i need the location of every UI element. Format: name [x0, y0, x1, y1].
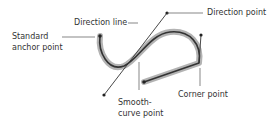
label-direction-point: Direction point	[207, 8, 266, 18]
corner-direction-handle[interactable]	[199, 33, 202, 36]
curve-path-halo	[100, 32, 200, 82]
end-anchor-point[interactable]	[142, 80, 146, 84]
standard-anchor-point[interactable]	[98, 34, 102, 38]
label-corner-point: Corner point	[178, 90, 228, 100]
label-standard-anchor-1: Standard	[12, 32, 48, 42]
direction-point-handle-lower[interactable]	[102, 93, 105, 96]
label-direction-line: Direction line	[74, 18, 127, 28]
label-smooth-curve-1: Smooth-	[118, 98, 152, 108]
label-standard-anchor-2: anchor point	[12, 43, 63, 53]
label-smooth-curve-2: curve point	[118, 109, 163, 119]
